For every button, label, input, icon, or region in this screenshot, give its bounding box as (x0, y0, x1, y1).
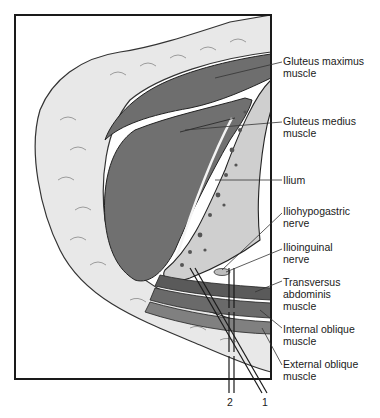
label-gluteus-maximus: Gluteus maximus muscle (283, 55, 364, 79)
label-ilium: Ilium (283, 174, 305, 186)
label-iliohypogastric-nerve: Iliohypogastric nerve (283, 205, 350, 229)
label-transversus-abdominis: Transversus abdominis muscle (283, 276, 340, 312)
needle-1-number: 1 (262, 396, 268, 408)
label-gluteus-medius: Gluteus medius muscle (283, 115, 356, 139)
label-internal-oblique: Internal oblique muscle (283, 323, 355, 347)
label-external-oblique: External oblique muscle (283, 358, 358, 382)
label-ilioinguinal-nerve: Ilioinguinal nerve (283, 241, 333, 265)
needle-2-number: 2 (227, 396, 233, 408)
